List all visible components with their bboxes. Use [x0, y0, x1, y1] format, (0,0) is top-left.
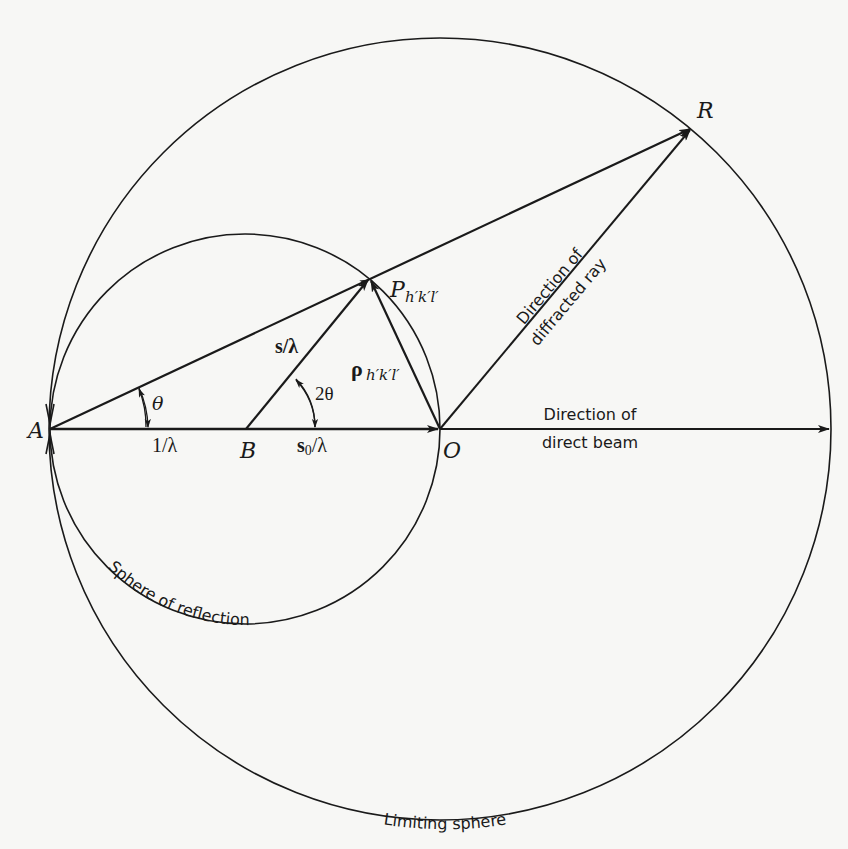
label-p-subscript: h′k′l′ — [405, 288, 439, 306]
label-two-theta: 2θ — [315, 383, 334, 404]
vector-s-over-lambda — [246, 280, 368, 429]
label-b: B — [239, 438, 256, 463]
label-s-over-lambda: s/λ — [275, 335, 298, 357]
diffracted-ray-label-group: Direction of diffracted ray — [508, 239, 610, 349]
label-p: P — [389, 277, 406, 302]
label-limiting-sphere: Limiting sphere — [383, 810, 508, 834]
label-direct-beam-1: Direction of — [544, 405, 637, 424]
label-theta: θ — [152, 392, 164, 414]
label-o: O — [443, 438, 461, 463]
ewald-diagram: A B O R P h′k′l′ 1/λ s/λ s0/λ ρ h′k′l′ θ… — [0, 0, 848, 849]
s0-subscript: 0 — [305, 443, 312, 458]
label-rho-subscript: h′k′l′ — [366, 366, 400, 384]
arrow-a-to-p — [300, 280, 368, 312]
label-rho: ρ — [351, 356, 363, 381]
two-theta-arc — [296, 379, 315, 427]
s0-suffix: /λ — [312, 434, 328, 456]
label-a: A — [26, 418, 44, 443]
s-symbol: s/λ — [275, 335, 298, 357]
label-sphere-of-reflection: Sphere of reflection — [105, 557, 250, 629]
label-direct-beam-2: direct beam — [542, 433, 638, 452]
theta-arc-reverse — [139, 389, 146, 427]
label-s0-over-lambda: s0/λ — [297, 434, 327, 458]
label-r: R — [696, 98, 714, 123]
two-theta-arc-reverse — [296, 380, 315, 427]
s0-symbol: s — [297, 434, 305, 456]
label-one-over-lambda: 1/λ — [152, 434, 178, 456]
rho-symbol: ρ — [351, 356, 363, 381]
